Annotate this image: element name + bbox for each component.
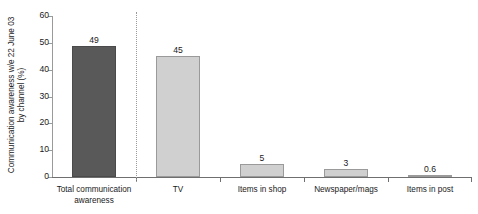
x-tick-mark	[220, 177, 221, 182]
y-tick-label: 10	[39, 144, 49, 154]
y-tick-label: 40	[39, 64, 49, 74]
y-tick-label: 60	[39, 10, 49, 20]
x-tick-mark	[304, 177, 305, 182]
y-axis-title-line-1: Communication awareness w/e 22 June 03	[7, 17, 17, 174]
bar: 5	[240, 164, 284, 177]
x-axis-label-line: awareness	[43, 195, 145, 206]
plot-area: 0102030405060 4945530.6	[52, 16, 472, 177]
y-tick-label: 30	[39, 91, 49, 101]
y-tick-label: 20	[39, 117, 49, 127]
y-tick-label: 0	[44, 171, 49, 181]
bar: 45	[156, 56, 200, 177]
y-tick-label: 50	[39, 37, 49, 47]
y-axis-spine	[52, 16, 53, 177]
bar-value-label: 45	[173, 45, 183, 55]
bar: 0.6	[408, 175, 452, 178]
bar-value-label: 3	[344, 158, 349, 168]
x-tick-mark	[471, 177, 472, 182]
y-axis-title-line-2: by channel (%)	[17, 68, 27, 123]
bar-value-label: 5	[260, 153, 265, 163]
x-axis-label-line: Items in post	[379, 184, 478, 195]
x-axis-spine	[52, 177, 472, 178]
y-axis-title: Communication awareness w/e 22 June 03 b…	[0, 0, 34, 190]
x-tick-mark	[388, 177, 389, 182]
bar-chart: Communication awareness w/e 22 June 03 b…	[0, 0, 478, 214]
x-axis-labels: Total communicationawarenessTVItems in s…	[52, 184, 472, 214]
bar: 3	[324, 169, 368, 177]
bar-value-label: 0.6	[424, 164, 436, 174]
bar-value-label: 49	[89, 35, 99, 45]
bar: 49	[72, 46, 116, 177]
x-axis-label: Items in post	[379, 184, 478, 195]
divider-line	[136, 12, 137, 182]
